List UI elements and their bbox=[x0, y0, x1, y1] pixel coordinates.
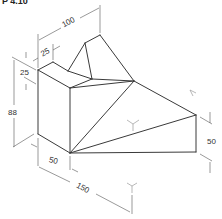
svg-text:88: 88 bbox=[8, 108, 17, 117]
dimension-50-front: 50 bbox=[31, 138, 78, 172]
iso-axis-marker-right bbox=[190, 90, 196, 96]
dimension-25-width: 25 bbox=[33, 44, 60, 61]
iso-axis-marker-face bbox=[127, 120, 139, 131]
object-outline bbox=[38, 35, 196, 153]
svg-text:25: 25 bbox=[39, 46, 52, 58]
svg-text:50: 50 bbox=[48, 155, 59, 166]
svg-text:25: 25 bbox=[20, 68, 29, 77]
figure-title-fragment: P 4.10 bbox=[2, 0, 28, 6]
dimension-150: 150 bbox=[39, 167, 132, 214]
svg-text:100: 100 bbox=[60, 15, 76, 29]
isometric-drawing: P 4.10 bbox=[0, 0, 222, 219]
svg-text:150: 150 bbox=[75, 181, 91, 195]
dimension-50-right: 50 bbox=[200, 112, 216, 173]
svg-text:50: 50 bbox=[207, 137, 216, 146]
iso-axis-marker-bottom bbox=[127, 183, 137, 193]
dimension-25-height: 25 bbox=[12, 52, 36, 90]
dimension-100: 100 bbox=[38, 5, 100, 68]
